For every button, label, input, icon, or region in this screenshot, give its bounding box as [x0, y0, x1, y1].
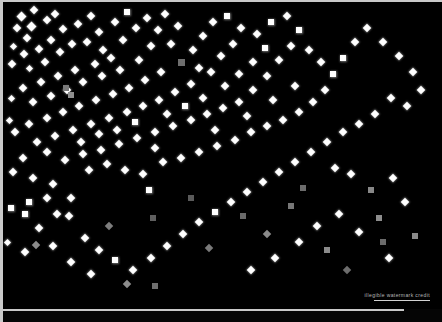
- scatter-marker: [49, 180, 57, 188]
- scatter-marker: [35, 45, 43, 53]
- scatter-marker: [203, 110, 211, 118]
- scatter-marker: [187, 116, 195, 124]
- scatter-marker: [295, 238, 303, 246]
- scatter-marker: [169, 122, 177, 130]
- scatter-marker: [103, 160, 111, 168]
- scatter-marker: [271, 254, 279, 262]
- scatter-marker: [305, 46, 313, 54]
- scatter-marker: [321, 86, 329, 94]
- scatter-marker: [188, 195, 194, 201]
- scatter-marker: [287, 42, 295, 50]
- scatter-marker: [29, 174, 37, 182]
- scatter-marker: [61, 156, 69, 164]
- scatter-marker: [313, 222, 321, 230]
- scatter-marker: [403, 102, 411, 110]
- scatter-marker: [249, 86, 257, 94]
- scatter-marker: [95, 130, 103, 138]
- scatter-marker: [74, 20, 82, 28]
- scatter-marker: [296, 27, 302, 33]
- scatter-marker: [229, 40, 237, 48]
- scatter-marker: [147, 254, 155, 262]
- scatter-marker: [247, 128, 255, 136]
- scatter-marker: [59, 108, 67, 116]
- scatter-marker: [275, 168, 283, 176]
- scatter-marker: [355, 228, 363, 236]
- frame-edge-bottom: [0, 309, 404, 311]
- scatter-marker: [56, 48, 64, 56]
- scatter-marker: [92, 96, 100, 104]
- scatter-marker: [155, 96, 163, 104]
- scatter-marker: [83, 38, 91, 46]
- scatter-marker: [132, 119, 138, 125]
- watermark-underline: [374, 300, 430, 301]
- scatter-marker: [141, 76, 149, 84]
- plot-canvas: illegible watermark credit: [3, 2, 442, 309]
- scatter-marker: [199, 94, 207, 102]
- scatter-marker: [199, 32, 207, 40]
- scatter-marker: [8, 205, 14, 211]
- scatter-marker: [195, 218, 203, 226]
- scatter-marker: [115, 140, 123, 148]
- scatter-marker: [119, 36, 127, 44]
- scatter-marker: [212, 209, 218, 215]
- scatter-marker: [19, 84, 27, 92]
- scatter-marker: [213, 142, 221, 150]
- scatter-marker: [23, 34, 31, 42]
- scatter-marker: [111, 18, 119, 26]
- scatter-marker: [87, 120, 95, 128]
- scatter-marker: [323, 138, 331, 146]
- scatter-marker: [49, 242, 57, 250]
- scatter-marker: [11, 128, 19, 136]
- scatter-marker: [330, 71, 336, 77]
- scatter-marker: [263, 122, 271, 130]
- scatter-marker: [9, 42, 16, 49]
- scatter-marker: [91, 60, 99, 68]
- scatter-marker: [263, 230, 271, 238]
- scatter-marker: [109, 90, 117, 98]
- scatter-marker: [112, 257, 118, 263]
- scatter-marker: [231, 136, 239, 144]
- scatter-marker: [189, 46, 197, 54]
- scatter-marker: [219, 104, 227, 112]
- scatter-marker: [68, 92, 74, 98]
- scatter-marker: [259, 178, 267, 186]
- scatter-marker: [335, 210, 343, 218]
- scatter-marker: [152, 283, 158, 289]
- scatter-marker: [87, 270, 95, 278]
- scatter-marker: [116, 66, 124, 74]
- scatter-marker: [347, 170, 355, 178]
- scatter-marker: [235, 98, 243, 106]
- scatter-marker: [283, 12, 291, 20]
- scatter-marker: [147, 42, 155, 50]
- scatter-marker: [389, 174, 397, 182]
- scatter-marker: [75, 102, 83, 110]
- scatter-marker: [37, 78, 45, 86]
- scatter-marker: [133, 134, 141, 142]
- scatter-marker: [26, 21, 36, 31]
- scatter-marker: [139, 170, 147, 178]
- scatter-marker: [81, 234, 89, 242]
- scatter-marker: [376, 215, 382, 221]
- scatter-marker: [79, 78, 87, 86]
- scatter-marker: [129, 266, 137, 274]
- scatter-marker: [95, 246, 103, 254]
- scatter-marker: [221, 82, 229, 90]
- scatter-marker: [123, 280, 131, 288]
- scatter-marker: [47, 92, 55, 100]
- scatter-marker: [161, 10, 169, 18]
- scatter-marker: [67, 258, 75, 266]
- scatter-marker: [68, 40, 76, 48]
- scatter-marker: [262, 45, 268, 51]
- scatter-marker: [177, 154, 185, 162]
- scatter-marker: [3, 238, 10, 245]
- scatter-marker: [387, 94, 395, 102]
- scatter-marker: [417, 86, 425, 94]
- scatter-marker: [275, 56, 283, 64]
- scatter-marker: [25, 64, 32, 71]
- scatter-marker: [253, 30, 261, 38]
- scatter-marker: [268, 19, 274, 25]
- scatter-marker: [343, 266, 351, 274]
- scatter-marker: [98, 72, 106, 80]
- scatter-marker: [47, 36, 55, 44]
- scatter-marker: [150, 215, 156, 221]
